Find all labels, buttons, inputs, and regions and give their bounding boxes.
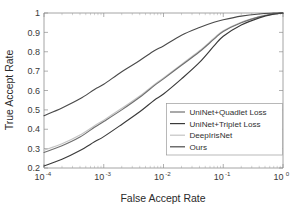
svg-text:-1: -1: [225, 170, 231, 177]
x-tick-label: 10-3: [94, 170, 111, 182]
x-axis-title: False Accept Rate: [120, 192, 205, 204]
x-tick-label: 10-4: [34, 170, 51, 182]
svg-text:10: 10: [34, 172, 44, 182]
svg-text:10: 10: [214, 172, 224, 182]
y-tick-label: 0.3: [27, 144, 40, 154]
x-axis-tick-labels: 10-410-310-210-1100: [34, 170, 289, 182]
x-tick-label: 10-2: [154, 170, 171, 182]
y-tick-label: 0.9: [27, 28, 40, 38]
y-axis-tick-labels: 0.20.30.40.50.60.70.80.91: [27, 8, 40, 173]
svg-text:10: 10: [273, 172, 283, 182]
roc-chart-figure: 0.20.30.40.50.60.70.80.91 10-410-310-210…: [0, 0, 296, 206]
y-axis-title: True Accept Rate: [3, 49, 15, 130]
roc-chart-svg: 0.20.30.40.50.60.70.80.91 10-410-310-210…: [0, 0, 296, 206]
svg-text:-3: -3: [105, 170, 111, 177]
svg-text:10: 10: [154, 172, 164, 182]
y-tick-label: 0.7: [27, 66, 40, 76]
x-tick-label: 10-1: [214, 170, 231, 182]
curve-ours: [44, 13, 283, 116]
y-tick-label: 0.8: [27, 47, 40, 57]
y-tick-label: 0.4: [27, 124, 40, 134]
svg-text:-2: -2: [165, 170, 171, 177]
legend-label: Ours: [190, 143, 208, 152]
y-tick-label: 1: [35, 8, 40, 18]
x-tick-label: 100: [273, 170, 289, 182]
svg-text:-4: -4: [46, 170, 52, 177]
legend-label: UniNet+Triplet Loss: [190, 120, 261, 129]
svg-text:0: 0: [286, 170, 290, 177]
y-tick-label: 0.5: [27, 105, 40, 115]
legend-label: DeepIrisNet: [190, 131, 233, 140]
legend-label: UniNet+Quadlet Loss: [190, 108, 267, 117]
y-tick-label: 0.6: [27, 86, 40, 96]
svg-text:10: 10: [94, 172, 104, 182]
